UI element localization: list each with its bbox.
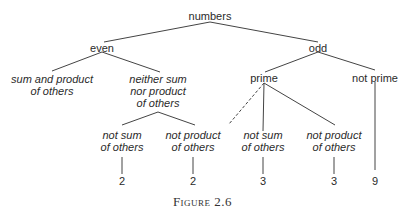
node-sum-and-product: sum and product of others xyxy=(11,73,93,97)
node-not-product-even: not product of others xyxy=(165,129,220,153)
node-not-product-prime: not product of others xyxy=(306,129,361,153)
node-numbers: numbers xyxy=(189,10,232,22)
leaf-2b: 2 xyxy=(190,175,196,187)
label-line: of others xyxy=(129,97,186,109)
leaf-3a: 3 xyxy=(260,175,266,187)
label-line: of others xyxy=(306,141,361,153)
label-line: not sum xyxy=(101,129,144,141)
label-line: neither sum xyxy=(129,73,186,85)
label-line: not product xyxy=(306,129,361,141)
leaf-3b: 3 xyxy=(331,175,337,187)
label-line: not sum xyxy=(242,129,285,141)
node-even: even xyxy=(90,42,114,54)
node-not-sum-even: not sum of others xyxy=(101,129,144,153)
label-line: of others xyxy=(242,141,285,153)
leaf-9: 9 xyxy=(372,175,378,187)
label-line: sum and product xyxy=(11,73,93,85)
node-not-sum-prime: not sum of others xyxy=(242,129,285,153)
node-prime: prime xyxy=(250,72,278,84)
label-line: not product xyxy=(165,129,220,141)
node-not-prime: not prime xyxy=(352,72,398,84)
label-line: of others xyxy=(101,141,144,153)
label-line: nor product xyxy=(129,85,186,97)
label-line: of others xyxy=(11,85,93,97)
node-neither: neither sum nor product of others xyxy=(129,73,186,109)
tree-edges xyxy=(0,0,405,218)
label-line: of others xyxy=(165,141,220,153)
figure-caption: Figure 2.6 xyxy=(173,194,232,210)
leaf-2a: 2 xyxy=(119,175,125,187)
node-odd: odd xyxy=(309,42,327,54)
